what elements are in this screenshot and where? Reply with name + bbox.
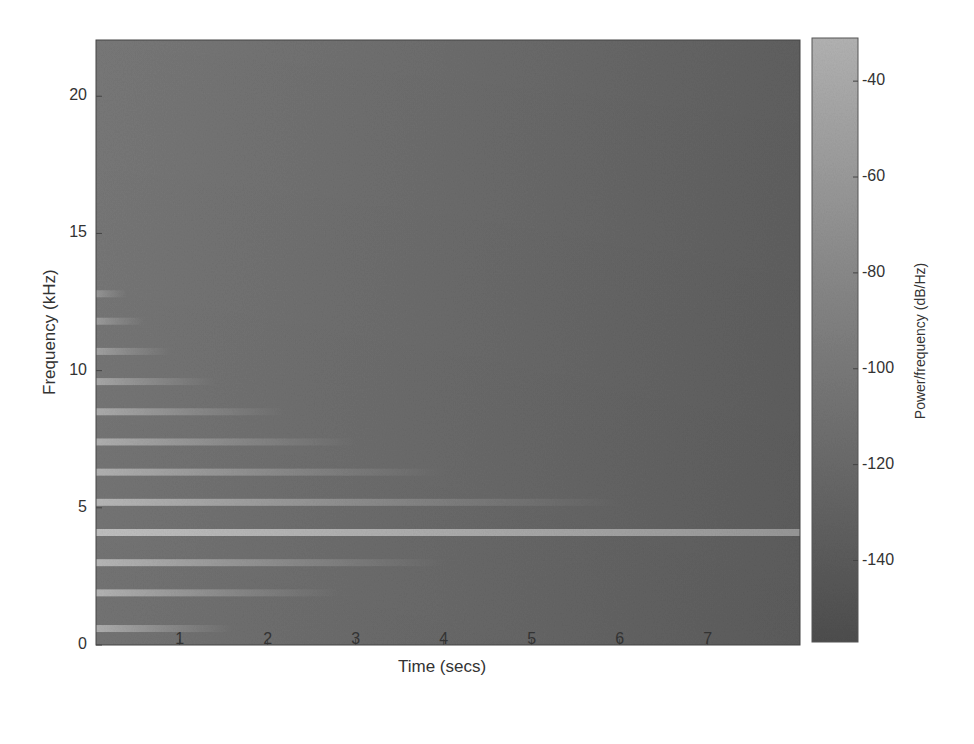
colorbar-tick-label: -100 xyxy=(862,359,894,377)
harmonic-band xyxy=(96,499,620,506)
x-axis-title: Time (secs) xyxy=(398,657,486,677)
harmonic-band xyxy=(96,348,171,355)
harmonic-band xyxy=(96,559,444,566)
y-tick-label: 0 xyxy=(47,635,87,653)
colorbar-tick-label: -40 xyxy=(862,71,885,89)
harmonic-band xyxy=(96,318,144,325)
spectrogram-figure: 05101520 1234567 -40-60-80-100-120-140 T… xyxy=(0,0,974,744)
colorbar-tick-label: -60 xyxy=(862,167,885,185)
colorbar-title: Power/frequency (dB/Hz) xyxy=(912,256,928,426)
colorbar-tick-label: -120 xyxy=(862,455,894,473)
harmonic-band xyxy=(96,469,444,476)
harmonic-band xyxy=(96,378,215,385)
plot-area xyxy=(96,40,800,645)
harmonic-band xyxy=(96,589,338,596)
harmonic-band xyxy=(96,290,127,297)
x-tick-label: 7 xyxy=(693,630,723,648)
harmonic-band xyxy=(96,529,800,536)
spectrogram-plot xyxy=(0,0,974,744)
x-tick-label: 2 xyxy=(253,630,283,648)
x-tick-label: 5 xyxy=(517,630,547,648)
colorbar xyxy=(812,38,858,642)
x-tick-label: 3 xyxy=(341,630,371,648)
x-tick-label: 4 xyxy=(429,630,459,648)
y-axis-title: Frequency (kHz) xyxy=(40,285,60,395)
x-tick-label: 1 xyxy=(165,630,195,648)
harmonic-band xyxy=(96,408,285,415)
y-tick-label: 5 xyxy=(47,498,87,516)
x-tick-label: 6 xyxy=(605,630,635,648)
y-tick-label: 15 xyxy=(47,223,87,241)
colorbar-tick-label: -80 xyxy=(862,263,885,281)
harmonic-band xyxy=(96,438,356,445)
colorbar-tick-label: -140 xyxy=(862,551,894,569)
y-tick-label: 20 xyxy=(47,86,87,104)
